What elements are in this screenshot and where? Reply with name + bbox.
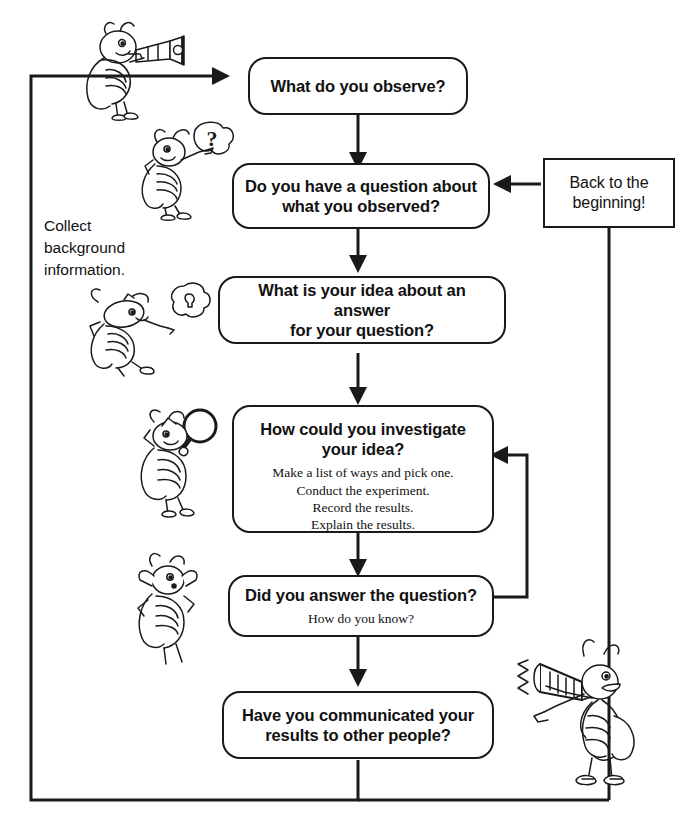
insect-body — [87, 23, 144, 121]
connector-investigate-to-answered — [349, 533, 367, 577]
illustration-insect-thinking-pose — [124, 548, 236, 666]
insect-body — [90, 289, 174, 376]
node-did-you-answer-the-question[interactable]: Did you answer the question? How do you … — [228, 575, 494, 637]
connector-answered-back-to-investigate — [490, 446, 527, 597]
illustration-insect-with-telescope — [58, 14, 206, 122]
illustration-insect-with-magnifying-glass — [132, 402, 250, 530]
node-title: What is your idea about an answer for yo… — [230, 280, 494, 340]
node-subtext: How do you know? — [308, 610, 414, 627]
node-subtext: Make a list of ways and pick one. Conduc… — [272, 464, 453, 533]
sound-waves-icon — [518, 660, 528, 694]
note-collect-background-information: Collect background information. — [44, 215, 184, 281]
telescope-icon — [136, 36, 184, 65]
question-mark-bubble: ? — [194, 122, 233, 154]
node-title: Have you communicated your results to ot… — [242, 705, 474, 745]
node-what-do-you-observe[interactable]: What do you observe? — [248, 57, 468, 115]
insect-body — [138, 554, 197, 664]
insect-body — [534, 640, 634, 785]
node-do-you-have-a-question[interactable]: Do you have a question about what you ob… — [232, 163, 490, 229]
connector-answered-to-communicate — [349, 635, 367, 687]
node-title: Do you have a question about what you ob… — [245, 176, 477, 216]
illustration-insect-with-megaphone — [506, 634, 682, 794]
illustration-insect-with-idea-bubble — [84, 276, 216, 376]
connector-idea-to-investigate — [349, 353, 367, 405]
node-what-is-your-idea[interactable]: What is your idea about an answer for yo… — [218, 276, 506, 344]
connector-back-to-question — [493, 175, 541, 193]
node-back-to-the-beginning[interactable]: Back to the beginning! — [543, 158, 675, 228]
node-have-you-communicated[interactable]: Have you communicated your results to ot… — [222, 691, 494, 759]
illustration-insect-with-question-mark: ? — [133, 116, 247, 222]
idea-cloud-icon — [172, 283, 210, 317]
connector-observe-to-question — [349, 114, 367, 170]
node-title: Did you answer the question? — [245, 585, 477, 605]
node-how-could-you-investigate[interactable]: How could you investigate your idea? Mak… — [232, 405, 494, 533]
node-title: Back to the beginning! — [570, 173, 649, 213]
connector-question-to-idea — [349, 228, 367, 273]
flowchart-canvas: What do you observe? Do you have a quest… — [0, 0, 687, 830]
node-title: How could you investigate your idea? — [260, 419, 466, 459]
node-title: What do you observe? — [271, 76, 446, 96]
svg-text:?: ? — [207, 126, 218, 151]
